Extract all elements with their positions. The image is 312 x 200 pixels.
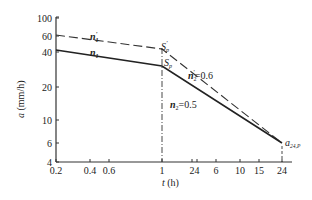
x-tick-label: 0.6	[103, 165, 116, 176]
x-tick-label: 10	[235, 165, 245, 176]
label-n2-prime: n2'=0.6	[188, 68, 213, 82]
label-a24p: a24,P	[285, 137, 301, 149]
y-tick-label: 6	[47, 138, 52, 149]
label-n2: n2=0.5	[170, 99, 197, 111]
label-n1: n1	[90, 47, 99, 59]
label-sp-prime: Sp'	[161, 39, 169, 53]
chart: 1006040201064 0.20.40.61246101524 n1' n1…	[0, 0, 312, 200]
y-tick-label: 10	[42, 115, 52, 126]
y-tick-label: 40	[42, 47, 52, 58]
label-sp: Sp	[164, 57, 172, 69]
x-tick-label: 4	[195, 165, 200, 176]
y-tick-label: 20	[42, 82, 52, 93]
x-tick-label: 0.2	[50, 165, 63, 176]
x-tick-label: 24	[277, 165, 287, 176]
x-tick-label: 6	[214, 165, 219, 176]
y-tick-label: 100	[37, 13, 52, 24]
label-n1-prime: n1'	[90, 30, 99, 43]
x-tick-label: 15	[254, 165, 264, 176]
x-tick-label: 0.4	[84, 165, 97, 176]
x-axis-title: t (h)	[162, 177, 179, 189]
y-tick-label: 60	[42, 31, 52, 42]
y-axis-title: a (mm/h)	[15, 81, 27, 119]
x-tick-label: 1	[160, 165, 165, 176]
